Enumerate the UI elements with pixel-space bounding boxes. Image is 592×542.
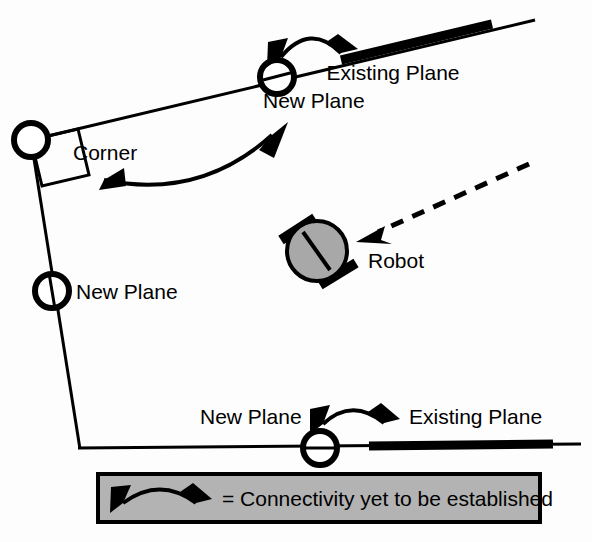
corner-vertex-circle-icon [14,123,48,157]
label-existing-plane-top: Existing Plane [326,61,459,84]
label-corner: Corner [73,141,137,164]
diagram-svg: Existing Plane New Plane Corner New Plan… [0,0,592,542]
arrow-top-head-right [325,34,358,53]
dashed-pointer-arrow-icon [356,164,529,244]
bottom-existing-plane-segment [369,444,553,446]
label-new-plane-left: New Plane [76,280,178,303]
legend-box: = Connectivity yet to be established [98,474,553,522]
arrow-bottom-head-right [368,403,400,423]
dashed-pointer-head [356,226,392,244]
corner-arrow-head-left [99,168,126,190]
label-new-plane-top: New Plane [263,89,365,112]
legend-text: = Connectivity yet to be established [222,487,553,510]
robot-group [281,218,356,285]
diagram-canvas: Existing Plane New Plane Corner New Plan… [0,0,592,542]
dashed-pointer-line [378,164,529,232]
top-existing-plane-segment [341,24,492,60]
label-robot: Robot [368,249,424,272]
label-new-plane-bottom: New Plane [200,405,302,428]
label-existing-plane-bottom: Existing Plane [409,405,542,428]
